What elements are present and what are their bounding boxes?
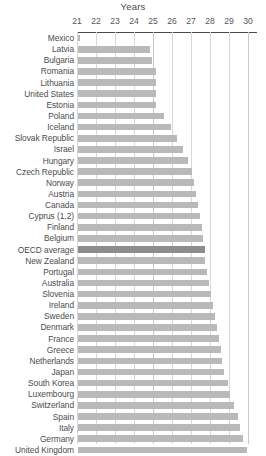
bar-row: Greece	[0, 344, 266, 355]
bar	[78, 191, 196, 198]
category-label: Ireland	[0, 300, 74, 310]
bar-row: Japan	[0, 367, 266, 378]
bar	[78, 146, 183, 153]
bar-row: Luxembourg	[0, 389, 266, 400]
category-label: France	[0, 334, 74, 344]
category-label: Denmark	[0, 322, 74, 332]
bar-row: Australia	[0, 277, 266, 288]
bar-row: Romania	[0, 66, 266, 77]
category-label: United States	[0, 89, 74, 99]
bar	[78, 235, 203, 242]
category-label: Switzerland	[0, 400, 74, 410]
bar-row: New Zealand	[0, 255, 266, 266]
category-label: Lithuania	[0, 78, 74, 88]
category-label: Latvia	[0, 44, 74, 54]
category-label: Slovenia	[0, 289, 74, 299]
bar	[78, 435, 243, 442]
bar-row: Belgium	[0, 233, 266, 244]
bar-row: Ireland	[0, 300, 266, 311]
bar-row: Sweden	[0, 311, 266, 322]
bar-row: France	[0, 333, 266, 344]
bar	[78, 179, 194, 186]
bar-row: Czech Republic	[0, 166, 266, 177]
category-label: Portugal	[0, 267, 74, 277]
category-label: Belgium	[0, 233, 74, 243]
category-label: Japan	[0, 367, 74, 377]
category-label: Czech Republic	[0, 167, 74, 177]
category-label: Poland	[0, 111, 74, 121]
bar	[78, 79, 156, 86]
category-label: Cyprus (1,2)	[0, 211, 74, 221]
bar-row: Hungary	[0, 155, 266, 166]
bar-row: Italy	[0, 422, 266, 433]
bar	[78, 369, 224, 376]
bar-row: Portugal	[0, 266, 266, 277]
bar-row: Lithuania	[0, 77, 266, 88]
bar	[78, 291, 211, 298]
category-label: Canada	[0, 200, 74, 210]
category-label: Estonia	[0, 100, 74, 110]
category-label: Spain	[0, 412, 74, 422]
category-label: Romania	[0, 66, 74, 76]
category-label: Slovak Republic	[0, 133, 74, 143]
bar	[78, 113, 164, 120]
category-label: Sweden	[0, 311, 74, 321]
bar	[78, 90, 156, 97]
bar-row: Poland	[0, 111, 266, 122]
bar-row: Mexico	[0, 33, 266, 44]
bar	[78, 46, 150, 53]
bar	[78, 313, 215, 320]
category-label: Netherlands	[0, 356, 74, 366]
category-label: Germany	[0, 434, 74, 444]
bar-row: Slovenia	[0, 289, 266, 300]
bar-row: Norway	[0, 177, 266, 188]
bar-row: Finland	[0, 222, 266, 233]
bar	[78, 135, 177, 142]
category-label: Norway	[0, 178, 74, 188]
bar-row: United States	[0, 88, 266, 99]
bar	[78, 280, 209, 287]
category-label: Luxembourg	[0, 389, 74, 399]
category-label: Israel	[0, 144, 74, 154]
bar-row: Denmark	[0, 322, 266, 333]
bar	[78, 447, 247, 454]
bar	[78, 202, 198, 209]
category-label: New Zealand	[0, 256, 74, 266]
bar-row: United Kingdom	[0, 444, 266, 455]
category-label: Bulgaria	[0, 55, 74, 65]
bar-row: Slovak Republic	[0, 133, 266, 144]
bar	[78, 246, 205, 253]
category-label: Australia	[0, 278, 74, 288]
category-label: Finland	[0, 222, 74, 232]
category-label: OECD average	[0, 245, 74, 255]
bar-row: Germany	[0, 433, 266, 444]
bar-row: Switzerland	[0, 400, 266, 411]
bar-row: Netherlands	[0, 355, 266, 366]
bar	[78, 157, 188, 164]
bar-row: Canada	[0, 200, 266, 211]
bar	[78, 35, 80, 42]
bar-row: Austria	[0, 188, 266, 199]
bar	[78, 335, 219, 342]
bar-row: South Korea	[0, 378, 266, 389]
bar	[78, 269, 207, 276]
category-label: South Korea	[0, 378, 74, 388]
bar	[78, 346, 221, 353]
category-label: Mexico	[0, 33, 74, 43]
bar-row: Israel	[0, 144, 266, 155]
bar	[78, 68, 156, 75]
category-label: Austria	[0, 189, 74, 199]
bar	[78, 402, 234, 409]
bar	[78, 391, 230, 398]
bar	[78, 213, 200, 220]
bar-row: Spain	[0, 411, 266, 422]
bar	[78, 57, 152, 64]
category-label: United Kingdom	[0, 445, 74, 455]
bar	[78, 413, 238, 420]
bar	[78, 224, 202, 231]
bar	[78, 124, 171, 131]
category-label: Hungary	[0, 156, 74, 166]
bar	[78, 302, 213, 309]
bar	[78, 358, 222, 365]
